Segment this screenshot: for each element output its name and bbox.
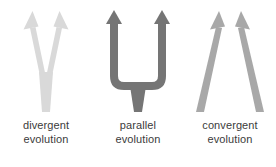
parallel-right-arrow: [154, 10, 170, 74]
divergent-right-arrow: [47, 11, 69, 76]
convergent-right-arrow: [235, 11, 264, 112]
caption-divergent-evolution: divergent evolution: [0, 119, 92, 146]
parallel-common-stem: [130, 86, 146, 112]
caption-convergent-evolution: convergent evolution: [184, 119, 276, 146]
divergent-common-stem: [39, 72, 53, 112]
caption-divergent-line2: evolution: [0, 133, 92, 147]
divergent-evolution-arrows-icon: [0, 0, 92, 118]
caption-convergent-line2: evolution: [184, 133, 276, 147]
caption-parallel-evolution: parallel evolution: [92, 119, 184, 146]
convergent-left-arrow: [196, 11, 225, 112]
caption-parallel-line1: parallel: [92, 119, 184, 133]
caption-convergent-line1: convergent: [184, 119, 276, 133]
panel-parallel-evolution: parallel evolution: [92, 0, 184, 167]
parallel-evolution-arrows-icon: [92, 0, 184, 118]
divergent-left-arrow: [24, 11, 46, 76]
convergent-evolution-arrows-icon: [184, 0, 276, 118]
parallel-left-arrow: [106, 10, 122, 74]
panel-divergent-evolution: divergent evolution: [0, 0, 92, 167]
caption-divergent-line1: divergent: [0, 119, 92, 133]
evolution-modes-figure: divergent evolution: [0, 0, 276, 167]
panel-convergent-evolution: convergent evolution: [184, 0, 276, 167]
caption-parallel-line2: evolution: [92, 133, 184, 147]
